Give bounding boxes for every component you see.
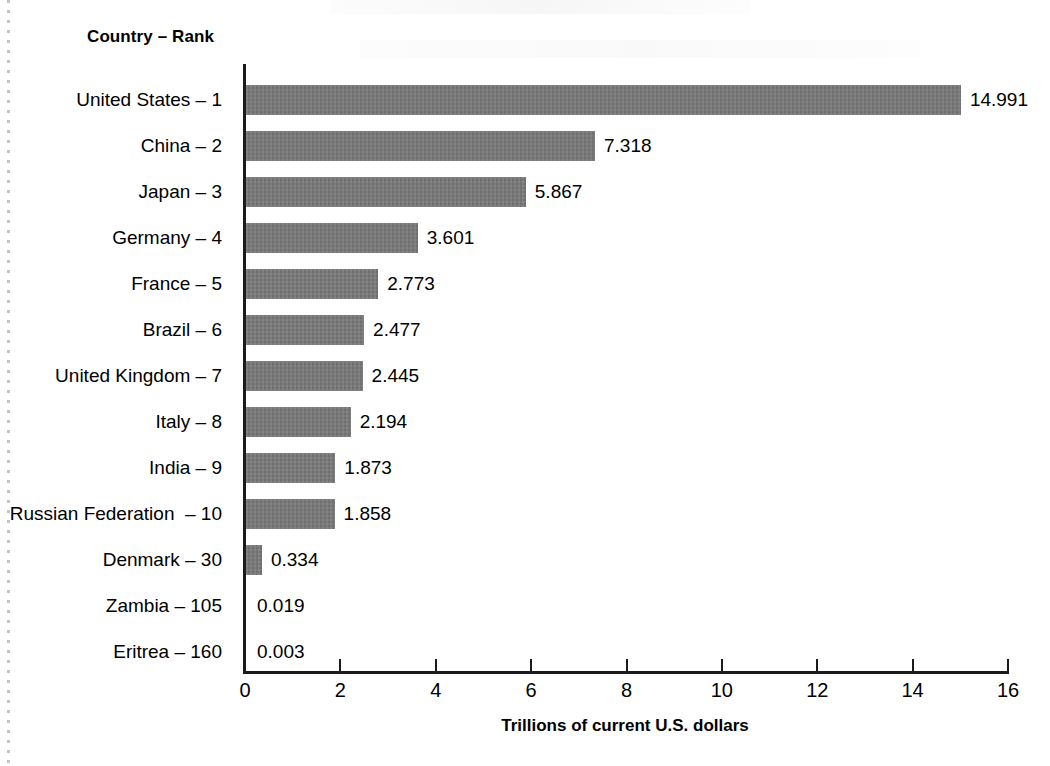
- bar-texture: [246, 131, 595, 161]
- scan-artifact-secondary: [360, 40, 920, 58]
- bar: [246, 315, 364, 345]
- bar-row: Eritrea – 1600.003: [0, 629, 1050, 675]
- x-tick-label: 2: [310, 676, 370, 704]
- category-label: United Kingdom – 7: [0, 353, 232, 399]
- x-tick-mark: [816, 659, 818, 672]
- x-tick-label: 12: [787, 676, 847, 704]
- bar: [246, 407, 351, 437]
- bar-value-label: 0.334: [271, 537, 319, 583]
- bar-texture: [246, 269, 378, 299]
- bar-row: United Kingdom – 72.445: [0, 353, 1050, 399]
- category-label: Germany – 4: [0, 215, 232, 261]
- x-axis-title-text: Trillions of current U.S. dollars: [501, 716, 749, 735]
- bar: [246, 177, 526, 207]
- x-tick-mark: [912, 659, 914, 672]
- x-tick-mark: [1007, 659, 1009, 672]
- bar: [246, 269, 378, 299]
- category-label: Denmark – 30: [0, 537, 232, 583]
- x-tick-label: 6: [501, 676, 561, 704]
- bar-texture: [246, 85, 961, 115]
- x-tick-label: 4: [406, 676, 466, 704]
- category-label: France – 5: [0, 261, 232, 307]
- bar: [246, 545, 262, 575]
- category-label: India – 9: [0, 445, 232, 491]
- bar-row: Germany – 43.601: [0, 215, 1050, 261]
- bar: [246, 453, 335, 483]
- bar-row: Zambia – 1050.019: [0, 583, 1050, 629]
- x-tick-mark: [530, 659, 532, 672]
- bar-texture: [246, 177, 526, 207]
- bar-texture: [246, 453, 335, 483]
- bar-texture: [246, 223, 418, 253]
- bar-value-label: 2.477: [373, 307, 421, 353]
- category-label: Eritrea – 160: [0, 629, 232, 675]
- bar-texture: [246, 407, 351, 437]
- bar-row: China – 27.318: [0, 123, 1050, 169]
- category-label: Russian Federation – 10: [0, 491, 232, 537]
- bar-texture: [246, 545, 262, 575]
- y-axis-line: [243, 64, 246, 674]
- x-tick-label: 14: [883, 676, 943, 704]
- bar-value-label: 0.019: [257, 583, 305, 629]
- x-tick-label: 10: [692, 676, 752, 704]
- bar-row: Russian Federation – 101.858: [0, 491, 1050, 537]
- x-tick-mark: [339, 659, 341, 672]
- x-tick-label: 8: [597, 676, 657, 704]
- bar-value-label: 14.991: [970, 77, 1028, 123]
- bar-row: United States – 114.991: [0, 77, 1050, 123]
- category-label: China – 2: [0, 123, 232, 169]
- bar-row: India – 91.873: [0, 445, 1050, 491]
- category-label: Brazil – 6: [0, 307, 232, 353]
- category-label: United States – 1: [0, 77, 232, 123]
- column-header: Country – Rank: [87, 27, 214, 47]
- bar-value-label: 2.445: [372, 353, 420, 399]
- bar: [246, 499, 335, 529]
- x-tick-mark: [721, 659, 723, 672]
- bar-value-label: 2.773: [387, 261, 435, 307]
- category-label: Japan – 3: [0, 169, 232, 215]
- bar: [246, 361, 363, 391]
- bar-row: Italy – 82.194: [0, 399, 1050, 445]
- x-tick-mark: [244, 659, 246, 672]
- x-tick-mark: [435, 659, 437, 672]
- bar-value-label: 0.003: [257, 629, 305, 675]
- x-tick-label: 16: [978, 676, 1038, 704]
- bar-value-label: 7.318: [604, 123, 652, 169]
- bar-value-label: 1.858: [344, 491, 392, 537]
- x-tick-label: 0: [215, 676, 275, 704]
- bar-value-label: 1.873: [344, 445, 392, 491]
- bar-value-label: 2.194: [360, 399, 408, 445]
- scan-artifact: [330, 0, 750, 14]
- bar-value-label: 5.867: [535, 169, 583, 215]
- bar-value-label: 3.601: [427, 215, 475, 261]
- bar-row: Japan – 35.867: [0, 169, 1050, 215]
- bar-texture: [246, 315, 364, 345]
- bar: [246, 223, 418, 253]
- x-tick-mark: [626, 659, 628, 672]
- bar-row: France – 52.773: [0, 261, 1050, 307]
- bar-texture: [246, 499, 335, 529]
- bar: [246, 85, 961, 115]
- bar-row: Brazil – 62.477: [0, 307, 1050, 353]
- category-label: Italy – 8: [0, 399, 232, 445]
- category-label: Zambia – 105: [0, 583, 232, 629]
- bar-texture: [246, 361, 363, 391]
- bar-row: Denmark – 300.334: [0, 537, 1050, 583]
- x-axis-title: Trillions of current U.S. dollars: [0, 716, 1050, 736]
- bar: [246, 131, 595, 161]
- bar-chart: Country – Rank United States – 114.991Ch…: [0, 0, 1050, 766]
